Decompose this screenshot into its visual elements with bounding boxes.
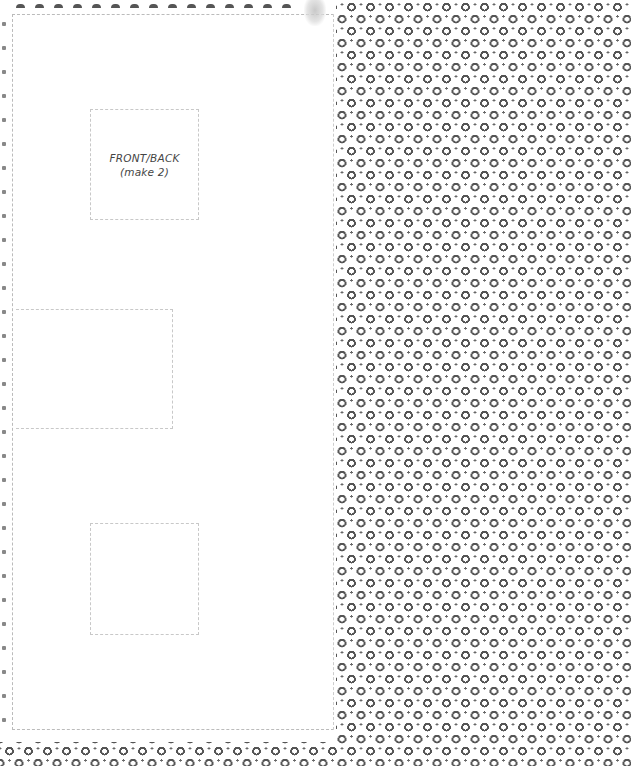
arch-motif-icon <box>225 4 234 8</box>
arch-motif-icon <box>2 406 6 410</box>
arch-motif-icon <box>16 4 25 8</box>
pattern-piece-middle-rect[interactable] <box>16 309 173 429</box>
arch-motif-icon <box>149 4 158 8</box>
arch-motif-icon <box>2 214 6 218</box>
arch-motif-icon <box>263 4 272 8</box>
arch-motif-icon <box>92 4 101 8</box>
arch-motif-icon <box>2 670 6 674</box>
arch-motif-icon <box>2 502 6 506</box>
pattern-piece-bottom-square[interactable] <box>90 523 199 635</box>
arch-motif-icon <box>2 622 6 626</box>
tape-mark <box>304 0 326 26</box>
arch-motif-icon <box>2 286 6 290</box>
arch-motif-icon <box>168 4 177 8</box>
top-border-strip <box>0 0 336 12</box>
arch-motif-icon <box>206 4 215 8</box>
arch-motif-icon <box>2 694 6 698</box>
arch-motif-icon <box>2 598 6 602</box>
arch-motif-icon <box>2 142 6 146</box>
arch-motif-icon <box>2 46 6 50</box>
arch-motif-icon <box>2 118 6 122</box>
arch-motif-icon <box>282 4 291 8</box>
arch-motif-icon <box>35 4 44 8</box>
left-border-strip <box>0 0 10 742</box>
arch-motif-icon <box>244 4 253 8</box>
arch-motif-icon <box>2 526 6 530</box>
arch-motif-icon <box>2 358 6 362</box>
arch-motif-icon <box>2 190 6 194</box>
pattern-sheet-panel: FRONT/BACK (make 2) <box>0 0 336 742</box>
arch-motif-icon <box>2 454 6 458</box>
arch-motif-icon <box>73 4 82 8</box>
arch-motif-icon <box>111 4 120 8</box>
arch-motif-icon <box>54 4 63 8</box>
arch-motif-icon <box>2 382 6 386</box>
arch-motif-icon <box>2 478 6 482</box>
arch-motif-icon <box>2 238 6 242</box>
arch-motif-icon <box>2 262 6 266</box>
pattern-piece-front-back[interactable]: FRONT/BACK (make 2) <box>90 109 199 220</box>
arch-motif-icon <box>187 4 196 8</box>
arch-motif-icon <box>2 574 6 578</box>
arch-motif-icon <box>2 430 6 434</box>
arch-motif-icon <box>2 646 6 650</box>
arch-motif-icon <box>2 310 6 314</box>
arch-motif-icon <box>2 94 6 98</box>
piece-title: FRONT/BACK <box>109 151 179 165</box>
arch-motif-icon <box>2 22 6 26</box>
arch-motif-icon <box>2 718 6 722</box>
piece-quantity: (make 2) <box>120 165 169 179</box>
arch-motif-icon <box>2 334 6 338</box>
arch-motif-icon <box>130 4 139 8</box>
arch-motif-icon <box>2 70 6 74</box>
arch-motif-icon <box>2 166 6 170</box>
arch-motif-icon <box>2 550 6 554</box>
